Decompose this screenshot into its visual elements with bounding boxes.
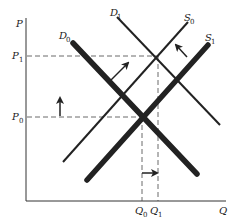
svg-text:0: 0 bbox=[19, 117, 23, 125]
demand-curve-d0 bbox=[73, 43, 197, 174]
p0-label: P 0 bbox=[11, 111, 23, 125]
supply-shift-arrow-icon bbox=[176, 45, 187, 57]
d0-label: D 0 bbox=[58, 30, 70, 44]
svg-text:1: 1 bbox=[19, 56, 23, 64]
demand-shift-arrow-icon bbox=[110, 63, 128, 81]
y-axis-label: P bbox=[15, 18, 23, 29]
svg-text:P: P bbox=[11, 111, 19, 122]
svg-text:1: 1 bbox=[211, 38, 215, 46]
svg-text:0: 0 bbox=[190, 18, 194, 26]
supply-demand-diagram: P Q P 1 P 0 Q 0 Q 1 D 0 D 1 S 0 S 1 bbox=[0, 0, 248, 224]
supply-curve-s1 bbox=[87, 45, 208, 180]
svg-text:1: 1 bbox=[158, 211, 162, 219]
svg-text:P: P bbox=[11, 50, 19, 61]
svg-text:0: 0 bbox=[66, 36, 70, 44]
q0-label: Q 0 bbox=[135, 205, 147, 219]
svg-text:Q: Q bbox=[135, 205, 143, 216]
svg-text:Q: Q bbox=[150, 205, 158, 216]
d1-label: D 1 bbox=[109, 7, 121, 21]
p1-label: P 1 bbox=[11, 50, 23, 64]
svg-text:0: 0 bbox=[143, 211, 147, 219]
x-axis-label: Q bbox=[219, 205, 227, 216]
q1-label: Q 1 bbox=[150, 205, 162, 219]
svg-text:1: 1 bbox=[117, 13, 121, 21]
